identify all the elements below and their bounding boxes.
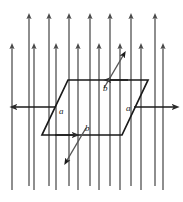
label-side-b-top: b [103, 83, 108, 93]
label-side-a-right: a [126, 103, 131, 113]
label-side-b-bottom: b [85, 123, 90, 133]
label-side-a-left: a [59, 106, 64, 116]
physics-diagram: a a b b [0, 0, 183, 202]
figure-canvas: a a b b [0, 0, 183, 202]
